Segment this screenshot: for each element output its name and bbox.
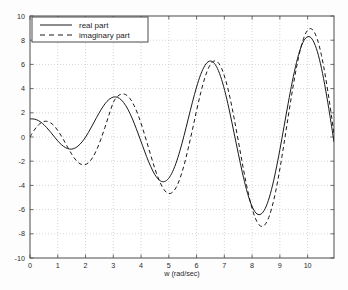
- chart-plot: 012345678910 -10-8-6-4-20246810 w (rad/s…: [0, 0, 348, 290]
- x-tick-label: 7: [222, 261, 226, 270]
- figure-canvas: 012345678910 -10-8-6-4-20246810 w (rad/s…: [0, 0, 348, 290]
- legend-label-imaginary-part: imaginary part: [79, 31, 130, 40]
- y-tick-label: 6: [21, 60, 25, 69]
- x-tick-label: 2: [84, 261, 88, 270]
- y-tick-label: 4: [21, 84, 25, 93]
- y-tick-label: 2: [21, 108, 25, 117]
- x-tick-label: 0: [28, 261, 32, 270]
- y-tick-label: -2: [19, 157, 25, 166]
- y-tick-label: 10: [17, 12, 25, 21]
- x-tick-label: 4: [139, 261, 143, 270]
- y-tick-label: -10: [15, 254, 25, 263]
- x-tick-label: 10: [304, 261, 312, 270]
- x-tick-label: 1: [56, 261, 60, 270]
- x-tick-label: 8: [250, 261, 254, 270]
- y-tick-label: -4: [19, 181, 25, 190]
- x-axis-title: w (rad/sec): [163, 269, 200, 278]
- y-tick-label: 0: [21, 133, 25, 142]
- legend-label-real-part: real part: [79, 21, 109, 30]
- x-tick-label: 3: [111, 261, 115, 270]
- y-tick-label: -6: [19, 205, 25, 214]
- y-tick-label: 8: [21, 36, 25, 45]
- y-tick-label: -8: [19, 229, 25, 238]
- x-tick-label: 9: [278, 261, 282, 270]
- legend: real part imaginary part: [32, 17, 148, 42]
